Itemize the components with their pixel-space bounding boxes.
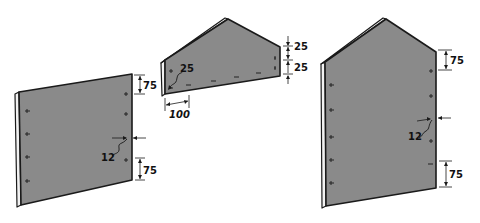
dimension-label: 75 <box>143 80 157 91</box>
dimension-label: 25 <box>294 41 308 52</box>
gable-panel-right: 75 12 75 <box>321 18 464 208</box>
dimension-bottom: 75 <box>135 158 157 180</box>
assembly-diagram: 75 12 75 <box>0 0 480 223</box>
side-panel-left: 75 12 75 <box>15 74 157 207</box>
dimension-bottom: 75 <box>439 161 463 187</box>
dimension-bottom: 100 <box>165 95 190 120</box>
dimension-label: 75 <box>450 55 464 66</box>
dimension-label: 12 <box>101 152 115 163</box>
dimension-label: 12 <box>408 131 422 142</box>
panel-face <box>165 19 280 94</box>
dimension-label: 100 <box>169 109 190 120</box>
dimension-label: 75 <box>143 165 157 176</box>
dimension-label: 25 <box>294 62 308 73</box>
panel-face <box>19 74 132 205</box>
panel-face <box>325 19 436 206</box>
dimension-label: 75 <box>449 169 463 180</box>
dimension-right: 25 25 <box>283 36 308 84</box>
dimension-top: 75 <box>438 50 464 70</box>
dimension-top: 75 <box>134 75 157 94</box>
dimension-label: 25 <box>180 63 194 74</box>
gable-panel-middle: 25 25 25 100 <box>161 18 308 120</box>
